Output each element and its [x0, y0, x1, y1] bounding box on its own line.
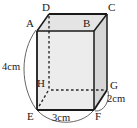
vertex-label-D: D	[42, 2, 50, 13]
vertex-label-H: H	[37, 78, 45, 89]
dimension-label-height: 4cm	[2, 62, 20, 73]
vertex-label-G: G	[110, 80, 118, 91]
face-front	[37, 31, 94, 110]
vertex-label-F: F	[95, 111, 101, 122]
geometry-figure: A B C D E F G H 4cm 3cm 2cm	[0, 0, 137, 128]
vertex-label-A: A	[26, 18, 34, 29]
dimension-arc-height	[24, 30, 36, 109]
dimension-label-depth: 2cm	[107, 94, 125, 105]
vertex-label-C: C	[108, 2, 115, 13]
vertex-label-B: B	[83, 18, 90, 29]
dimension-label-width: 3cm	[52, 113, 70, 124]
vertex-label-E: E	[27, 111, 34, 122]
cuboid-drawing	[0, 0, 137, 128]
